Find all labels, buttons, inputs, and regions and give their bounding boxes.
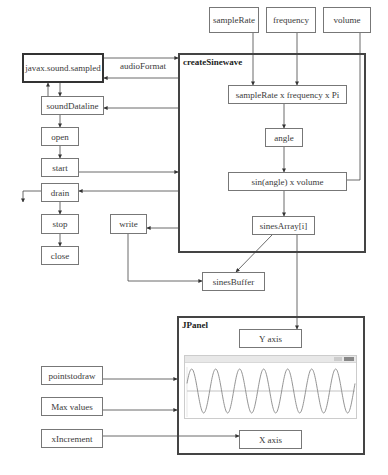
sound-dataline-box: soundDataline [41,96,104,115]
drain-box: drain [41,183,79,202]
x-axis-label: X axis [259,435,282,445]
sin-volume-label: sin(angle) x volume [252,177,324,187]
close-window-button[interactable] [344,357,354,361]
volume-label: volume [334,15,361,25]
x-increment-box: xIncrement [41,429,103,448]
max-values-box: Max values [41,397,103,416]
sines-buffer-label: sinesBuffer [213,277,254,287]
sound-dataline-label: soundDataline [47,101,99,111]
sines-array-box: sinesArray[i] [252,216,315,235]
y-axis-box: Y axis [239,329,302,348]
start-box: start [41,158,79,177]
sine-plot [185,363,356,419]
sine-wave-window [184,355,357,419]
minimize-button[interactable] [334,357,342,361]
sines-buffer-box: sinesBuffer [202,272,265,291]
close-label: close [51,251,70,261]
x-axis-box: X axis [239,430,302,449]
javax-label: javax.sound.sampled [25,63,101,73]
sample-rate-label: sampleRate [213,15,255,25]
open-box: open [41,127,79,146]
angle-label: angle [274,133,294,143]
frequency-label: frequency [273,15,309,25]
sample-rate-box: sampleRate [209,7,259,33]
max-values-label: Max values [51,402,93,412]
drain-label: drain [51,188,70,198]
points-to-draw-box: pointstodraw [41,366,103,385]
x-increment-label: xIncrement [52,434,93,444]
javax-sound-sampled-box: javax.sound.sampled [22,53,104,83]
close-box: close [41,246,79,265]
stop-box: stop [41,214,79,234]
stop-label: stop [52,219,67,229]
audio-format-label: audioFormat [120,61,166,71]
sines-array-label: sinesArray[i] [260,221,307,231]
volume-box: volume [323,7,371,33]
write-label: write [119,219,138,229]
points-to-draw-label: pointstodraw [49,371,96,381]
frequency-box: frequency [266,7,316,33]
formula-label: sampleRate x frequency x Pi [236,90,339,100]
sin-volume-box: sin(angle) x volume [228,172,347,191]
create-sinewave-title: createSinewave [183,57,242,67]
y-axis-label: Y axis [259,334,282,344]
jpanel-title: JPanel [182,320,208,330]
start-label: start [52,163,68,173]
write-box: write [110,214,147,234]
window-title-bar [185,356,356,363]
formula-box: sampleRate x frequency x Pi [228,85,347,104]
angle-box: angle [265,128,303,147]
open-label: open [51,132,69,142]
